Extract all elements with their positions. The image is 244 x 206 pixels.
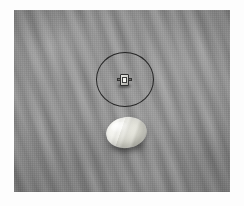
- photograph-plate: rippled sand seabed: [14, 10, 230, 192]
- photo-vignette: [14, 10, 230, 192]
- photo-border-mat: rippled sand seabed: [0, 0, 244, 206]
- screenshot-root: rippled sand seabed: [0, 0, 244, 206]
